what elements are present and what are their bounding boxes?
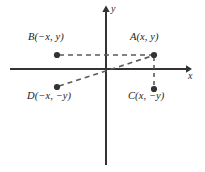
y-axis-label: y <box>111 3 115 14</box>
y-axis-arrowhead <box>102 6 109 13</box>
point-c-label: C(x, −y) <box>128 90 164 101</box>
point-b-label: B(−x, y) <box>28 31 64 42</box>
coordinate-plane-figure: B(−x, y) A(x, y) D(−x, −y) C(x, −y) y x <box>0 0 205 172</box>
point-d-label: D(−x, −y) <box>27 90 71 101</box>
point-a-marker <box>151 52 157 58</box>
x-axis-label: x <box>188 70 192 81</box>
point-a-label: A(x, y) <box>130 31 159 42</box>
figure-canvas <box>0 0 205 172</box>
point-b-marker <box>54 52 60 58</box>
